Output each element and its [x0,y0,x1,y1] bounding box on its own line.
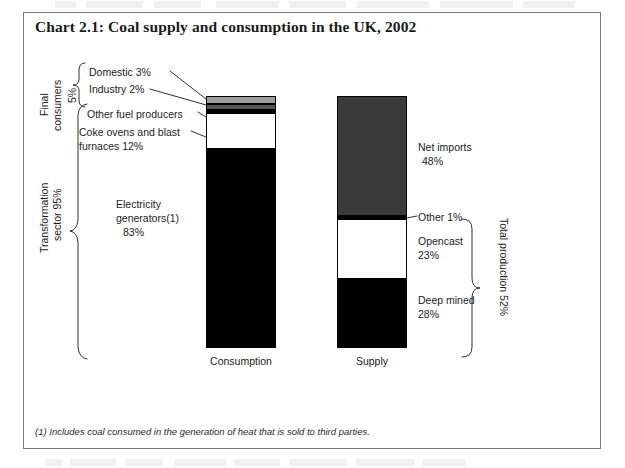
brace-total-production [462,219,480,357]
callout-net-imports-line2: 48% [422,155,443,169]
callout-industry: Industry 2% [89,83,144,97]
callout-opencast-line2: 23% [418,249,439,263]
callout-domestic: Domestic 3% [89,66,151,80]
leader-line-coke-ovens [191,131,206,137]
leader-line-domestic [170,71,206,99]
group-label-final-consumers-2: consumers [51,80,64,131]
callout-electricity-line1: Electricity [116,198,161,212]
callout-electricity-line3: 83% [123,226,144,240]
chart-container: Chart 2.1: Coal supply and consumption i… [23,12,601,449]
supply-bar [337,96,407,348]
final-consumers-line1: Final [38,93,50,116]
group-label-transformation-2: sector 95% [51,188,64,241]
callout-deep-mined-line1: Deep mined [418,294,475,308]
transformation-line1: Transformation [38,183,50,253]
leader-line-industry [150,89,206,105]
group-label-final-consumers: Final [38,93,51,116]
callout-coke-ovens-line2: furnaces 12% [79,140,143,154]
callout-coke-ovens-line1: Coke ovens and blast [79,126,180,140]
final-consumers-pct: 5% [66,88,78,103]
leader-line-other-fuel-producers [198,112,206,117]
group-label-final-consumers-pct: 5% [66,88,79,103]
total-production-text: Total production 52% [498,218,510,316]
leader-line-other [407,216,417,218]
page-text-above-chart [55,1,575,8]
page-text-below-chart [45,459,465,466]
segment-deep-mined [337,278,407,348]
callout-opencast-line1: Opencast [418,235,463,249]
segment-opencast [337,220,407,278]
segment-coke-ovens [206,122,276,148]
axis-label-supply: Supply [302,355,442,367]
callout-net-imports-line1: Net imports [418,141,472,155]
final-consumers-line2: consumers [51,80,63,131]
axis-label-consumption: Consumption [171,355,311,367]
group-label-transformation-1: Transformation [38,183,51,253]
transformation-line2: sector 95% [51,188,63,241]
consumption-bar [206,96,276,348]
callout-electricity-line2: generators(1) [116,212,179,226]
chart-footnote: (1) Includes coal consumed in the genera… [35,426,370,437]
callout-other-fuel-producers: Other fuel producers [87,108,183,122]
group-label-total-production: Total production 52% [497,218,510,316]
segment-electricity-generators [206,148,276,348]
callout-other: Other 1% [418,211,462,225]
callout-deep-mined-line2: 28% [418,308,439,322]
segment-domestic [206,96,276,104]
chart-plot-area: Consumption Supply Final consumers 5% Tr… [24,13,602,450]
segment-other-fuel-producers [206,114,276,122]
segment-net-imports [337,96,407,216]
